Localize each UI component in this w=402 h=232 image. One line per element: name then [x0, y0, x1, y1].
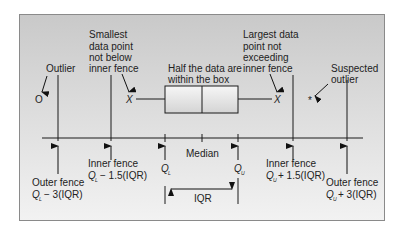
- outer-fence-right-label: Outer fence: [326, 177, 379, 188]
- median-label: Median: [186, 148, 219, 159]
- q1-subscript: L: [168, 170, 171, 176]
- smallest-label-4: inner fence: [89, 63, 139, 74]
- largest-arrow-icon: [270, 74, 277, 92]
- suspected-label-1: Suspected: [331, 63, 378, 74]
- inner-fence-right-label: Inner fence: [266, 158, 316, 169]
- largest-label-4: inner fence: [243, 63, 293, 74]
- left-whisker-end-marker: X: [125, 94, 133, 105]
- suspected-arrow-icon: [315, 84, 328, 96]
- iqr-label: IQR: [194, 193, 212, 204]
- half-data-label-2: within the box: [167, 74, 229, 85]
- largest-label-1: Largest data: [243, 29, 299, 40]
- outer-fence-right-formula: + 3(IQR): [338, 189, 377, 200]
- outlier-marker: O: [35, 94, 43, 105]
- largest-label-3: exceeding: [243, 52, 289, 63]
- outer-fence-left-label: Outer fence: [32, 177, 85, 188]
- outer-fence-right-sub: U: [333, 196, 337, 202]
- suspected-label-2: outlier: [331, 74, 359, 85]
- inner-fence-right-formula: + 1.5(IQR): [278, 170, 325, 181]
- suspected-outlier-marker: *: [308, 95, 312, 106]
- inner-fence-left-sub: L: [95, 177, 98, 183]
- q3-subscript: U: [241, 170, 245, 176]
- largest-label-2: point not: [243, 41, 282, 52]
- smallest-label-3: not below: [89, 52, 133, 63]
- smallest-label-1: Smallest: [89, 29, 128, 40]
- inner-fence-right-sub: U: [273, 177, 277, 183]
- outer-fence-left-sub: L: [39, 196, 42, 202]
- outlier-arrow-icon: [42, 76, 47, 92]
- inner-fence-left-formula: − 1.5(IQR): [100, 170, 147, 181]
- inner-fence-left-label: Inner fence: [88, 158, 138, 169]
- smallest-arrow-icon: [122, 74, 129, 92]
- box-plot-diagram: O X X * IQR Outlier Smallest data point …: [0, 0, 402, 232]
- outer-fence-left-formula: − 3(IQR): [44, 189, 83, 200]
- outlier-label: Outlier: [46, 63, 76, 74]
- right-whisker-end-marker: X: [273, 94, 281, 105]
- smallest-label-2: data point: [89, 41, 133, 52]
- half-data-label-1: Half the data are: [168, 63, 242, 74]
